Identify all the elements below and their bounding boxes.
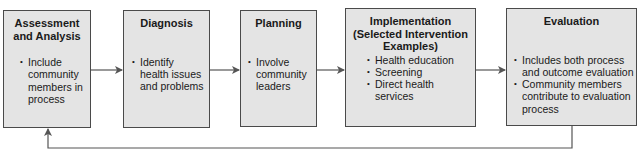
bullet-item: Direct health services [367, 78, 475, 103]
bullet-item: Involve community leaders [248, 56, 316, 93]
bullet-list: Includes both process and outcome evalua… [514, 54, 636, 115]
title-line: Planning [241, 17, 316, 30]
bullet-item: Community members contribute to evaluati… [514, 78, 636, 115]
step-evaluation: Evaluation Includes both process and out… [506, 8, 637, 126]
step-title: Planning [241, 17, 316, 30]
bullet-item: Health education [367, 54, 475, 66]
step-implementation: Implementation (Selected Intervention Ex… [345, 8, 476, 127]
bullet-item: Includes both process and outcome evalua… [514, 54, 636, 79]
step-assessment-and-analysis: Assessment and Analysis Include communit… [3, 10, 91, 128]
bullet-list: Involve community leaders [248, 56, 316, 93]
step-title: Assessment and Analysis [4, 17, 90, 42]
bullet-item: Include community members in process [20, 56, 90, 105]
title-line: Diagnosis [124, 17, 209, 30]
feedback-arrow-evaluation-to-assessment [48, 126, 572, 148]
bullet-list: Health education Screening Direct health… [367, 54, 475, 103]
bullet-item: Screening [367, 66, 475, 78]
title-line: Assessment [4, 17, 90, 30]
bullet-list: Include community members in process [20, 56, 90, 105]
title-line: Evaluation [507, 15, 636, 28]
step-title: Implementation (Selected Intervention Ex… [346, 15, 475, 53]
step-title: Diagnosis [124, 17, 209, 30]
step-diagnosis: Diagnosis Identify health issues and pro… [123, 10, 210, 128]
title-line: and Analysis [4, 30, 90, 43]
title-line: (Selected Intervention [346, 28, 475, 41]
step-planning: Planning Involve community leaders [240, 10, 317, 127]
step-title: Evaluation [507, 15, 636, 28]
title-line: Implementation [346, 15, 475, 28]
bullet-list: Identify health issues and problems [132, 56, 209, 93]
title-line: Examples) [346, 40, 475, 53]
bullet-item: Identify health issues and problems [132, 56, 209, 93]
